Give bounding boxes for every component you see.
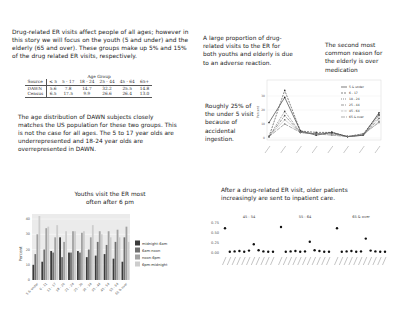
bar: [110, 237, 112, 280]
bar: [56, 225, 58, 280]
data-point: [378, 122, 380, 124]
data-point: [347, 136, 349, 138]
age-group-table: Age Group Source ≤ 5 5 - 17 18 - 24 25 -…: [25, 74, 152, 98]
facet-label: 65 & over: [352, 215, 370, 219]
annotation-adverse-reaction: A large proportion of drug-related visit…: [203, 34, 293, 67]
data-point: [289, 250, 291, 252]
table-cell: 17.5: [59, 91, 76, 97]
y-tick: 0.00: [211, 251, 220, 255]
y-tick: 30: [261, 94, 265, 98]
facet: 45 - 54: [223, 215, 275, 265]
bar: [113, 259, 115, 280]
y-tick: 30: [26, 232, 30, 236]
data-point: [284, 115, 286, 117]
bar: [88, 250, 90, 280]
y-tick: 0.75: [211, 221, 219, 225]
data-point: [257, 249, 259, 251]
bar: [61, 257, 63, 280]
x-tick-label: [265, 146, 270, 153]
bar: [70, 253, 72, 280]
data-point: [331, 132, 333, 134]
dotplot-title: After a drug-related ER visit, older pat…: [221, 186, 371, 202]
table-header: 25 - 44: [97, 79, 117, 85]
data-point: [268, 136, 270, 138]
bar: [126, 227, 128, 280]
bar: [63, 242, 65, 280]
y-tick: 0: [263, 136, 265, 140]
data-point: [379, 251, 381, 253]
legend-item: noon-6pm: [142, 256, 161, 260]
data-point: [378, 112, 380, 114]
bar: [108, 231, 110, 280]
bar: [128, 242, 130, 280]
data-point: [328, 251, 330, 253]
facet-label: 45 - 54: [243, 215, 256, 219]
data-point: [336, 227, 338, 229]
table-cell: 9.9: [77, 91, 97, 97]
y-axis-label: Percent: [256, 105, 260, 118]
data-point: [362, 134, 364, 136]
legend-item: 65 & over: [349, 115, 365, 119]
y-tick: 20: [261, 108, 265, 112]
bar: [79, 253, 81, 280]
y-axis-label: Percent: [18, 246, 23, 261]
bar: [115, 242, 117, 280]
legend-item: 6am-noon: [142, 249, 160, 253]
x-tick-label: 5 & under: [25, 281, 40, 296]
data-point: [355, 251, 357, 253]
bar: [77, 251, 79, 280]
bar: [32, 265, 34, 280]
data-point: [253, 243, 255, 245]
data-point: [248, 249, 250, 251]
bar: [106, 245, 108, 280]
bar: [97, 242, 99, 280]
bar: [90, 237, 92, 280]
data-point: [378, 115, 380, 117]
bar: [54, 237, 56, 280]
data-point: [229, 251, 231, 253]
bar: [119, 237, 121, 280]
x-tick-label: [281, 146, 286, 153]
data-point: [309, 241, 311, 243]
data-point: [300, 132, 302, 134]
table-cell: Census: [25, 91, 46, 97]
data-point: [284, 97, 286, 99]
data-point: [294, 250, 296, 252]
bar-chart-title: Youths visit the ER most often after 6 p…: [74, 190, 146, 206]
data-point: [284, 90, 286, 92]
x-tick-label: [359, 146, 364, 153]
x-tick-label: [296, 146, 301, 153]
bar: [95, 256, 97, 280]
data-point: [233, 250, 235, 252]
facet: 65 & over: [335, 215, 387, 265]
legend-item: midnight-6am: [142, 242, 168, 246]
annotation-over-medication: The second most common reason for the el…: [325, 41, 387, 74]
data-point: [262, 250, 264, 252]
table-header: 45 - 64: [117, 79, 137, 85]
bar: [92, 225, 94, 280]
data-point: [362, 133, 364, 135]
table-cell: 26.6: [97, 91, 117, 97]
bar: [122, 262, 124, 280]
x-tick-label: [344, 146, 349, 153]
bar: [43, 250, 45, 280]
bar: [104, 254, 106, 280]
intro-text: Drug-related ER visits affect people of …: [12, 28, 190, 60]
bar: [38, 216, 40, 280]
legend-item: 45 - 64: [349, 109, 360, 113]
data-point: [374, 250, 376, 252]
facet: 55 - 64: [279, 215, 331, 265]
bar: [101, 234, 103, 280]
bar: [117, 230, 119, 280]
data-point: [285, 251, 287, 253]
legend-item: 6pm-midnight: [142, 263, 168, 267]
legend-item: 5 & under: [349, 85, 365, 89]
y-tick: 20: [26, 248, 30, 252]
table-cell: 6.5: [46, 91, 59, 97]
data-point: [378, 118, 380, 120]
data-point: [345, 250, 347, 252]
annotation-accidental-ingestion: Roughly 25% of the under 5 visit because…: [205, 102, 261, 143]
data-point: [315, 134, 317, 136]
bar: [74, 231, 76, 280]
data-point: [224, 227, 226, 229]
